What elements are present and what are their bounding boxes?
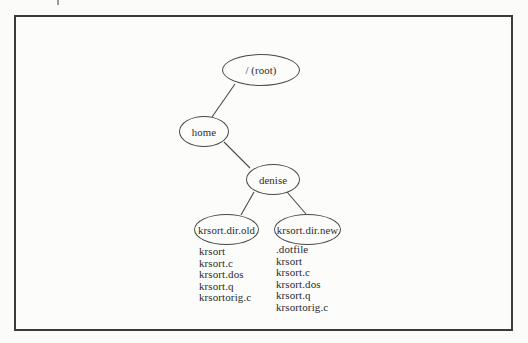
file-item: .dotfile — [276, 244, 328, 256]
file-list-krsort-dir-new: .dotfile krsort krsort.c krsort.dos krso… — [276, 244, 328, 314]
node-krsort-dir-old: krsort.dir.old — [194, 214, 259, 245]
node-denise-label: denise — [259, 174, 287, 186]
node-root-label: / (root) — [245, 64, 276, 76]
file-item: krsortorig.c — [199, 292, 251, 304]
node-home: home — [179, 116, 229, 147]
node-denise: denise — [246, 164, 300, 195]
file-list-krsort-dir-old: krsort krsort.c krsort.dos krsort.q krso… — [199, 246, 251, 304]
node-krsort-dir-new: krsort.dir.new — [274, 214, 341, 245]
scan-artifact — [57, 0, 59, 5]
node-krsort-dir-old-label: krsort.dir.old — [198, 224, 255, 236]
node-krsort-dir-new-label: krsort.dir.new — [277, 224, 338, 236]
file-item: krsortorig.c — [276, 302, 328, 314]
node-root: / (root) — [222, 54, 300, 86]
file-item: krsort — [199, 246, 251, 258]
node-home-label: home — [192, 126, 216, 138]
